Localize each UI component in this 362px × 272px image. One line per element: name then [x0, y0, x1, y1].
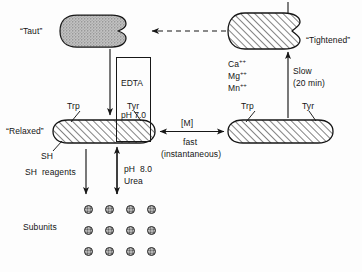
magnesium-symbol: Mg [228, 71, 240, 81]
calcium-symbol: Ca [228, 59, 239, 69]
slow-duration-label: (20 min) [293, 78, 325, 88]
relaxed-state-label: “Relaxed” [6, 126, 44, 136]
urea-label: Urea [124, 176, 143, 186]
subunits-label: Subunits [23, 222, 57, 232]
sh-reagents-label: SH reagents [25, 167, 76, 177]
edta-label: EDTA [121, 78, 146, 89]
calcium-ion-label: Ca++ [228, 58, 246, 69]
ph-condition-label: pH 8.0 [124, 164, 152, 174]
tyr-right-label: Tyr [302, 101, 314, 111]
calcium-charge: ++ [239, 58, 246, 64]
protein-conformational-states-diagram: “Taut” “Tightened” “Relaxed” EDTA pH 7.0… [0, 0, 362, 272]
trp-right-label: Trp [241, 101, 254, 111]
manganese-symbol: Mn [228, 83, 240, 93]
subunit-circle [147, 205, 156, 214]
tightened-state-shape [228, 13, 300, 49]
subunit-circle [126, 247, 135, 256]
subunit-circle [126, 205, 135, 214]
manganese-ion-label: Mn++ [228, 82, 247, 93]
instantaneous-label: (instantaneous) [161, 149, 221, 159]
subunit-circle [126, 226, 135, 235]
subunit-circle [84, 205, 93, 214]
edta-ph-label: pH 7.0 [121, 110, 146, 121]
magnesium-charge: ++ [240, 70, 247, 76]
metal-concentration-label: [M] [181, 118, 193, 128]
taut-state-label: “Taut” [20, 26, 42, 36]
trp-left-label: Trp [67, 101, 80, 111]
magnesium-ion-label: Mg++ [228, 70, 247, 81]
slow-kinetics-label: Slow [293, 66, 312, 76]
subunit-circle [105, 247, 114, 256]
fast-kinetics-label: fast [183, 137, 197, 147]
tyr-left-label: Tyr [127, 101, 139, 111]
subunit-circle [84, 226, 93, 235]
relaxed-metal-state-shape [228, 120, 333, 143]
edta-condition-bracket: EDTA pH 7.0 [116, 57, 151, 142]
sh-leader-line [53, 141, 62, 151]
subunit-circle [84, 247, 93, 256]
manganese-charge: ++ [240, 82, 247, 88]
subunit-circle [147, 226, 156, 235]
subunit-circle [105, 226, 114, 235]
subunit-circle [147, 247, 156, 256]
tightened-state-label: “Tightened” [306, 35, 350, 45]
taut-state-shape [60, 15, 126, 47]
subunit-circle [105, 205, 114, 214]
sh-group-label: SH [41, 151, 53, 161]
